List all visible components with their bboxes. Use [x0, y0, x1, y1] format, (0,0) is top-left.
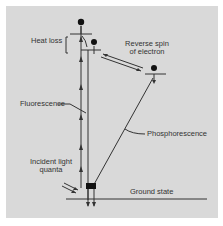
electron-top [78, 19, 84, 25]
electron-triplet [151, 65, 157, 71]
reverse-spin-label: Reverse spin of electron [117, 40, 177, 56]
reverse-spin-arrow-top [103, 54, 143, 68]
phosphorescence-line [92, 78, 153, 188]
ground-state-label: Ground state [130, 188, 173, 196]
reverse-spin-arrow-bottom [101, 57, 141, 71]
heat-loss-label: Heat loss [31, 37, 62, 45]
phosphorescence-leader [125, 129, 145, 134]
heat-loss-bracket [66, 37, 68, 53]
incident-light-label: Incident light quanta [22, 158, 80, 174]
fluorescence-label: Fluorescence [20, 100, 65, 108]
electron-ground [86, 183, 96, 189]
phosphorescence-label: Phosphorescence [147, 130, 207, 138]
electron-second [91, 39, 97, 45]
energy-diagram-graphic [0, 0, 223, 226]
diagram-canvas: Heat loss Reverse spin of electron Fluor… [0, 0, 223, 226]
